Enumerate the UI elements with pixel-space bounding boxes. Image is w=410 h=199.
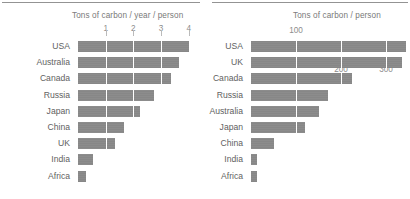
bar-row: Australia	[205, 106, 410, 117]
dual-bar-chart-figure: Tons of carbon / year / person 1234USAAu…	[0, 0, 410, 199]
bar	[251, 90, 328, 101]
plot-area-right: 100200300USAUKCanadaRussiaAustraliaJapan…	[205, 0, 410, 199]
x-tick-mark	[161, 30, 162, 36]
chart-panel-left: Tons of carbon / year / person 1234USAAu…	[0, 0, 205, 199]
category-label: Australia	[205, 106, 247, 117]
x-tick-mark	[189, 30, 190, 36]
bar-segment-divider	[161, 41, 162, 52]
category-label: Australia	[0, 57, 74, 68]
bar-segment-divider	[106, 57, 107, 68]
bar	[251, 106, 319, 117]
bar-row: Russia	[205, 90, 410, 101]
bar-row: Russia	[0, 90, 205, 101]
chart-panel-right: Tons of carbon / person 100200300USAUKCa…	[205, 0, 410, 199]
category-label: USA	[0, 41, 74, 52]
bar-row: USA	[205, 41, 410, 52]
bar-segment-divider	[296, 106, 297, 117]
bar-row: UK	[205, 57, 410, 68]
x-tick-mark	[106, 30, 107, 36]
bar-segment-divider	[106, 138, 107, 149]
category-label: Russia	[205, 90, 247, 101]
bar	[78, 154, 93, 165]
bar-segment-divider	[296, 90, 297, 101]
bar	[251, 154, 257, 165]
bar	[78, 138, 115, 149]
category-label: UK	[0, 138, 74, 149]
category-label: Japan	[0, 106, 74, 117]
bar-segment-divider	[133, 41, 134, 52]
bar-row: Australia	[0, 57, 205, 68]
bar	[251, 57, 402, 68]
bar-row: Africa	[0, 171, 205, 182]
bar	[251, 73, 352, 84]
bar-row: USA	[0, 41, 205, 52]
bar-row: Canada	[0, 73, 205, 84]
category-label: Russia	[0, 90, 74, 101]
bar-row: Canada	[205, 73, 410, 84]
category-label: India	[205, 154, 247, 165]
bar	[78, 90, 154, 101]
bar	[78, 106, 140, 117]
bar-segment-divider	[386, 57, 387, 68]
category-label: Africa	[205, 171, 247, 182]
bar-row: Japan	[0, 106, 205, 117]
category-label: India	[0, 154, 74, 165]
category-label: Canada	[0, 73, 74, 84]
bar-row: Japan	[205, 122, 410, 133]
bar-segment-divider	[106, 122, 107, 133]
x-tick-mark	[133, 30, 134, 36]
bar-segment-divider	[133, 73, 134, 84]
bar-segment-divider	[106, 73, 107, 84]
bar-row: Africa	[205, 171, 410, 182]
bar-segment-divider	[133, 90, 134, 101]
category-label: Japan	[205, 122, 247, 133]
bar-segment-divider	[133, 57, 134, 68]
bar	[251, 138, 274, 149]
bar	[251, 171, 257, 182]
bar	[78, 73, 171, 84]
bar-segment-divider	[296, 57, 297, 68]
bar-segment-divider	[341, 41, 342, 52]
category-label: China	[0, 122, 74, 133]
bar-segment-divider	[341, 57, 342, 68]
category-label: USA	[205, 41, 247, 52]
bar-segment-divider	[133, 106, 134, 117]
bar-row: China	[0, 122, 205, 133]
bar	[251, 122, 305, 133]
bar-segment-divider	[296, 122, 297, 133]
bar-segment-divider	[106, 90, 107, 101]
bar-row: India	[0, 154, 205, 165]
bar-segment-divider	[296, 41, 297, 52]
x-tick-label: 100	[289, 26, 303, 35]
bar-segment-divider	[341, 73, 342, 84]
bar	[78, 171, 86, 182]
bar-segment-divider	[106, 106, 107, 117]
category-label: UK	[205, 57, 247, 68]
bar	[78, 41, 189, 52]
bar-segment-divider	[296, 73, 297, 84]
category-label: China	[205, 138, 247, 149]
bar	[251, 41, 406, 52]
bar	[78, 122, 124, 133]
bar-segment-divider	[161, 57, 162, 68]
bar-row: India	[205, 154, 410, 165]
category-label: Africa	[0, 171, 74, 182]
category-label: Canada	[205, 73, 247, 84]
bar	[78, 57, 179, 68]
bar-row: UK	[0, 138, 205, 149]
bar-row: China	[205, 138, 410, 149]
bar-segment-divider	[106, 41, 107, 52]
bar-segment-divider	[161, 73, 162, 84]
plot-area-left: 1234USAAustraliaCanadaRussiaJapanChinaUK…	[0, 0, 205, 199]
bar-segment-divider	[386, 41, 387, 52]
